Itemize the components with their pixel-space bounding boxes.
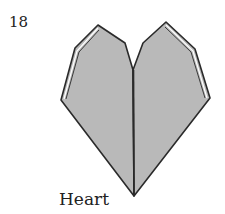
diagram-caption: Heart — [59, 191, 109, 208]
heart-right-half — [133, 22, 210, 196]
center-fold-line — [134, 70, 135, 196]
origami-heart-diagram — [0, 0, 225, 214]
heart-left-half — [61, 25, 134, 196]
